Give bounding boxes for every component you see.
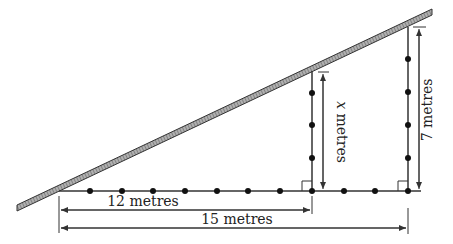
label-7-metres: 7 metres <box>419 79 435 142</box>
roof-support-diagram: x metres 7 metres 12 metres 15 metres <box>0 0 453 244</box>
label-15-metres: 15 metres <box>201 211 273 227</box>
label-x-metres: x metres <box>334 101 350 163</box>
roof-beam <box>17 9 432 211</box>
dimension-12 <box>59 196 312 233</box>
label-12-metres: 12 metres <box>107 193 179 209</box>
dimension-x <box>318 72 329 189</box>
